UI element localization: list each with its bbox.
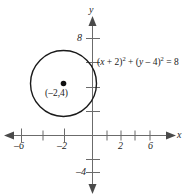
x-axis-left-arrow-icon [4, 132, 14, 140]
x-axis-right-arrow-icon [166, 132, 176, 140]
x-tick-label-2: 2 [118, 141, 123, 151]
equation-equals-eight: = 8 [164, 57, 179, 67]
x-axis-label: x [177, 130, 181, 140]
y-axis-bottom-arrow-icon [89, 184, 97, 194]
center-point-dot [61, 81, 67, 87]
equation-minus-four: – 4) [143, 57, 160, 67]
x-tick-label-minus-2: –2 [57, 141, 67, 151]
y-axis-top-arrow-icon [89, 16, 97, 26]
coordinate-plane [0, 0, 186, 195]
x-tick-label-minus-6: –6 [14, 141, 24, 151]
center-point-label: (–2,4) [45, 89, 68, 99]
y-axis-label: y [89, 5, 93, 15]
equation-plus: + ( [126, 57, 139, 67]
equation-plus-two: + 2) [104, 57, 122, 67]
circle-equation-label: (x + 2)2 + (y – 4)2 = 8 [97, 58, 179, 68]
y-tick-label-minus-4: –4 [76, 167, 86, 177]
y-tick-label-8: 8 [77, 33, 82, 43]
circle-graph-figure: –6 –2 2 6 8 –4 y x (–2,4) (x + 2)2 + (y … [0, 0, 186, 195]
x-tick-label-6: 6 [148, 141, 153, 151]
